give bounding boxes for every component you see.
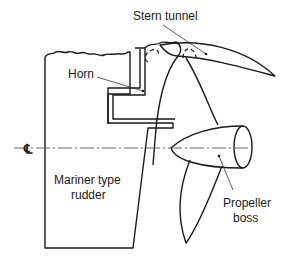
stern-tunnel-leader-dot bbox=[205, 53, 208, 56]
propeller-boss bbox=[171, 126, 243, 168]
rudder-propeller-diagram: ℄ Stern tunnel Horn Mariner type rudder … bbox=[0, 0, 288, 263]
boss-leader-dot bbox=[218, 155, 221, 158]
horn-label: Horn bbox=[68, 67, 94, 81]
horn-outline bbox=[113, 48, 175, 119]
horn-leader bbox=[97, 77, 143, 91]
rudder-label-line2: rudder bbox=[71, 188, 106, 202]
rudder-label-line1: Mariner type bbox=[54, 173, 121, 187]
stern-tunnel-label: Stern tunnel bbox=[133, 9, 198, 23]
boss-label-line2: boss bbox=[233, 211, 258, 225]
centerline-symbol: ℄ bbox=[23, 141, 33, 156]
propeller-blade-upper-right bbox=[186, 58, 218, 125]
propeller-boss-end bbox=[234, 126, 252, 168]
stern-tunnel-blade bbox=[160, 43, 275, 76]
stern-tunnel-leader bbox=[163, 25, 206, 54]
propeller-blade-upper-left bbox=[153, 56, 178, 165]
boss-leader bbox=[219, 156, 233, 190]
horn-leader-dot bbox=[142, 90, 145, 93]
boss-label-line1: Propeller bbox=[223, 196, 271, 210]
tunnel-dashed-left bbox=[145, 49, 158, 62]
propeller-blade-lower bbox=[180, 160, 222, 243]
